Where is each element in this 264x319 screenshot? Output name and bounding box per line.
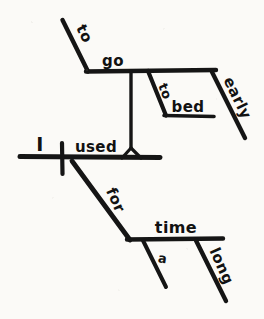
prep-phrase-for-time-group — [72, 161, 226, 301]
infinitive-go-baseline — [86, 70, 216, 72]
subject-verb-divider — [62, 143, 63, 174]
sentence-diagram-canvas: to go to bed early I used for time a lon… — [0, 0, 264, 319]
word-article-a: a — [157, 250, 168, 266]
word-verb-used: used — [75, 138, 117, 156]
word-prep-object-bed: bed — [172, 98, 205, 116]
word-infinitive-go: go — [102, 52, 124, 70]
diagram-svg: to go to bed early I used for time a lon… — [0, 0, 264, 319]
word-prep-object-time: time — [155, 218, 197, 237]
word-subject-i: I — [36, 133, 43, 155]
